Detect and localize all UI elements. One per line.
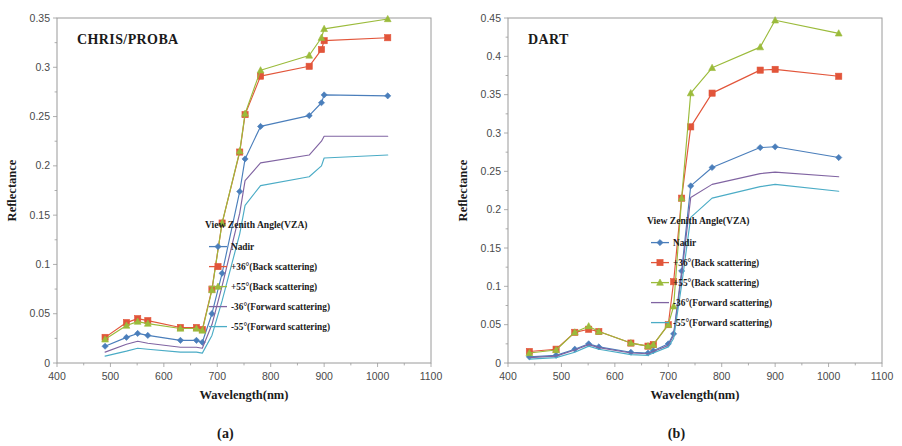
data-point bbox=[384, 15, 391, 21]
data-point bbox=[385, 35, 391, 41]
x-tick-label: 900 bbox=[766, 370, 784, 382]
legend-title: View Zenith Angle(VZA) bbox=[205, 219, 308, 231]
legend-label: +55°(Back scattering) bbox=[673, 278, 759, 289]
y-tick-label: 0.05 bbox=[481, 318, 502, 330]
y-tick-label: 0.45 bbox=[481, 12, 502, 24]
series-2 bbox=[526, 66, 842, 354]
y-tick-label: 0.1 bbox=[486, 280, 501, 292]
data-point bbox=[757, 144, 763, 150]
data-point bbox=[145, 332, 151, 338]
legend-label: +36°(Back scattering) bbox=[673, 258, 759, 269]
y-tick-label: 0.2 bbox=[35, 159, 50, 171]
data-point bbox=[177, 337, 183, 343]
data-point bbox=[102, 343, 108, 349]
data-point bbox=[318, 34, 325, 40]
x-tick-label: 400 bbox=[499, 370, 517, 382]
data-point bbox=[193, 337, 199, 343]
legend-marker bbox=[651, 279, 669, 285]
plot-frame bbox=[508, 18, 882, 363]
chart-chris-proba: 00.050.10.150.20.250.30.3540050060070080… bbox=[0, 0, 451, 412]
legend-marker bbox=[651, 260, 669, 266]
series-line bbox=[105, 38, 388, 338]
y-tick-label: 0.3 bbox=[486, 127, 501, 139]
legend-label: -55°(Forward scattering) bbox=[673, 318, 772, 329]
data-point bbox=[242, 156, 248, 162]
x-axis-title: Wavelength(nm) bbox=[200, 388, 289, 402]
data-point bbox=[237, 188, 243, 194]
x-tick-label: 400 bbox=[48, 370, 66, 382]
data-point bbox=[585, 323, 592, 329]
y-tick-label: 0.15 bbox=[481, 242, 502, 254]
x-tick-label: 1100 bbox=[871, 370, 894, 382]
data-point bbox=[321, 92, 327, 98]
legend: View Zenith Angle(VZA)Nadir+36°(Back sca… bbox=[205, 219, 330, 333]
x-tick-label: 500 bbox=[553, 370, 571, 382]
y-tick-label: 0.2 bbox=[486, 203, 501, 215]
y-tick-label: 0 bbox=[495, 357, 501, 369]
legend-label: Nadir bbox=[673, 238, 696, 248]
subcaption-a: (a) bbox=[0, 426, 451, 442]
legend-label: -36°(Forward scattering) bbox=[673, 298, 772, 309]
x-tick-label: 1000 bbox=[366, 370, 390, 382]
data-point bbox=[385, 93, 391, 99]
legend-label: Nadir bbox=[231, 242, 254, 252]
x-tick-label: 800 bbox=[713, 370, 731, 382]
x-tick-label: 800 bbox=[262, 370, 280, 382]
data-point bbox=[123, 334, 129, 340]
y-tick-label: 0.35 bbox=[481, 88, 502, 100]
x-axis-title: Wavelength(nm) bbox=[651, 388, 740, 402]
figure-reflectance-comparison: 00.050.10.150.20.250.30.3540050060070080… bbox=[0, 0, 902, 446]
data-point bbox=[836, 73, 842, 79]
x-tick-label: 500 bbox=[102, 370, 120, 382]
y-tick-label: 0.35 bbox=[30, 12, 51, 24]
data-point bbox=[772, 66, 778, 72]
panel-chris-proba: 00.050.10.150.20.250.30.3540050060070080… bbox=[0, 0, 451, 446]
x-tick-label: 1000 bbox=[817, 370, 841, 382]
x-tick-label: 600 bbox=[606, 370, 624, 382]
y-axis-title: Reflectance bbox=[5, 159, 19, 221]
data-point bbox=[257, 123, 263, 129]
x-tick-label: 700 bbox=[209, 370, 227, 382]
legend-label: -55°(Forward scattering) bbox=[231, 322, 330, 333]
legend: View Zenith Angle(VZA)Nadir+36°(Back sca… bbox=[647, 215, 772, 329]
chart-title: CHRIS/PROBA bbox=[77, 32, 179, 47]
y-tick-label: 0.3 bbox=[35, 61, 50, 73]
data-point bbox=[836, 154, 842, 160]
data-point bbox=[709, 90, 715, 96]
y-tick-label: 0.25 bbox=[30, 110, 51, 122]
legend-marker bbox=[209, 244, 227, 250]
y-tick-label: 0.1 bbox=[35, 258, 50, 270]
chart-dart: 00.050.10.150.20.250.30.350.40.454005006… bbox=[451, 0, 902, 412]
legend-label: +55°(Back scattering) bbox=[231, 282, 317, 293]
data-point bbox=[306, 63, 312, 69]
series-line bbox=[529, 69, 838, 351]
legend-label: -36°(Forward scattering) bbox=[231, 302, 330, 313]
series-2 bbox=[102, 35, 391, 341]
panel-dart: 00.050.10.150.20.250.30.350.40.454005006… bbox=[451, 0, 902, 446]
x-tick-label: 600 bbox=[155, 370, 173, 382]
y-axis-title: Reflectance bbox=[456, 159, 470, 221]
chart-title: DART bbox=[528, 32, 569, 47]
y-tick-label: 0 bbox=[44, 357, 50, 369]
data-point bbox=[135, 330, 141, 336]
legend-label: +36°(Back scattering) bbox=[231, 262, 317, 273]
y-tick-label: 0.05 bbox=[30, 307, 51, 319]
x-tick-label: 900 bbox=[315, 370, 333, 382]
subcaption-b: (b) bbox=[451, 426, 902, 442]
data-point bbox=[772, 144, 778, 150]
data-point bbox=[757, 44, 764, 50]
y-tick-label: 0.4 bbox=[486, 50, 501, 62]
y-tick-label: 0.15 bbox=[30, 209, 51, 221]
x-tick-label: 700 bbox=[660, 370, 678, 382]
data-point bbox=[318, 46, 324, 52]
y-tick-label: 0.25 bbox=[481, 165, 502, 177]
legend-marker bbox=[651, 240, 669, 246]
data-point bbox=[757, 67, 763, 73]
legend-title: View Zenith Angle(VZA) bbox=[647, 215, 750, 227]
x-tick-label: 1100 bbox=[420, 370, 443, 382]
